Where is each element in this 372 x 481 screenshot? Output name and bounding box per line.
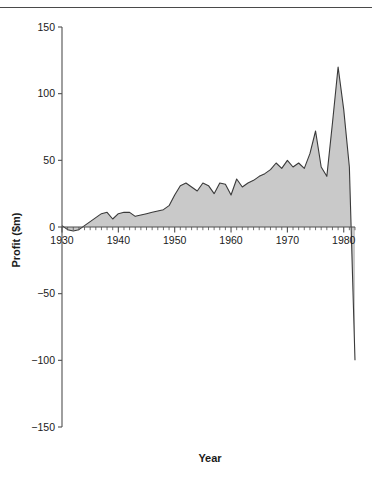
plot-area bbox=[62, 67, 355, 360]
y-axis-tick-label: 150 bbox=[37, 21, 55, 33]
series-area-fill bbox=[62, 67, 355, 360]
y-axis-tick-label: 50 bbox=[43, 154, 55, 166]
x-axis-tick-label: 1970 bbox=[276, 234, 300, 246]
x-axis-title: Year bbox=[198, 452, 222, 464]
y-axis-tick-label: 0 bbox=[49, 221, 55, 233]
y-axis-tick-label: −50 bbox=[37, 287, 55, 299]
x-axis-tick-label: 1950 bbox=[163, 234, 187, 246]
profit-area-chart: 150100500−50−100−150 1930194019501960197… bbox=[0, 0, 372, 481]
y-axis-tick-label: 100 bbox=[37, 87, 55, 99]
x-axis-tick-label: 1960 bbox=[219, 234, 243, 246]
y-axis-title: Profit ($m) bbox=[10, 212, 22, 267]
x-axis-tick-label: 1940 bbox=[107, 234, 131, 246]
y-axis: 150100500−50−100−150 bbox=[31, 21, 62, 433]
x-axis: 193019401950196019701980 bbox=[50, 227, 355, 246]
x-axis-tick-label: 1930 bbox=[50, 234, 74, 246]
figure-top-rule bbox=[0, 7, 372, 8]
x-axis-tick-label: 1980 bbox=[332, 234, 356, 246]
figure-container: 150100500−50−100−150 1930194019501960197… bbox=[0, 0, 372, 481]
y-axis-tick-label: −100 bbox=[31, 354, 55, 366]
y-axis-tick-label: −150 bbox=[31, 421, 55, 433]
